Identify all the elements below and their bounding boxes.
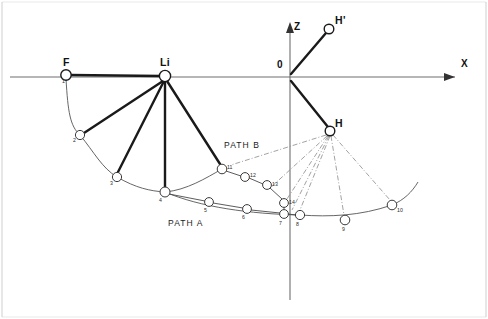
diagram-canvas (0, 0, 488, 319)
trajectory-node-label-13: 13 (272, 182, 278, 187)
h-fan-ray-3 (285, 136, 328, 202)
trajectory-node-8 (295, 210, 304, 219)
h-fan-ray-7 (333, 135, 390, 200)
trajectory-node-label-10: 10 (397, 208, 403, 213)
atom-layer (61, 24, 335, 136)
trajectory-node-7 (280, 210, 289, 219)
trajectory-node-label-8: 8 (296, 222, 299, 227)
trajectory-node-label-14: 14 (289, 200, 295, 205)
bond-o-hprime (291, 33, 326, 74)
trajectory-node-9 (340, 215, 350, 225)
atom-label-li: Li (160, 57, 170, 68)
trajectory-node-5 (205, 198, 214, 207)
trajectory-node-label-1: 1 (62, 79, 65, 84)
trajectory-node-label-4: 4 (159, 198, 162, 203)
atom-h (325, 126, 335, 136)
x-axis-label: X (461, 59, 468, 69)
trajectory-node-label-11: 11 (227, 165, 232, 170)
z-axis-label: Z (294, 22, 300, 32)
trajectory-node-12 (241, 173, 250, 182)
trajectory-node-3 (112, 172, 121, 181)
li-ray-bundle (84, 81, 220, 187)
atom-label-h-prime: H' (335, 15, 346, 26)
h-fan-ray-4 (292, 136, 329, 210)
atom-label-f: F (63, 57, 70, 68)
trajectory-node-13 (263, 181, 272, 190)
atom-label-h: H (335, 118, 343, 129)
trajectory-node-14 (280, 199, 289, 208)
trajectory-node-label-12: 12 (250, 173, 256, 178)
trajectory-node-2 (75, 130, 84, 139)
trajectory-node-label-7: 7 (279, 221, 282, 226)
trajectory-node-label-5: 5 (204, 208, 207, 213)
trajectory-node-label-6: 6 (242, 215, 245, 220)
figure-root: 1234567891011121314FLiH'H X Z 0 PATH A P… (0, 0, 488, 319)
bond-o-h (291, 81, 328, 127)
trajectory-node-6 (243, 205, 252, 214)
path-a-segments (169, 194, 296, 215)
trajectory-node-10 (387, 200, 397, 210)
atom-li (159, 70, 170, 81)
inner-trajectory-arc (66, 79, 222, 192)
trajectory-node-label-2: 2 (73, 138, 76, 143)
path-b-label: PATH B (224, 141, 260, 150)
atom-h-prime (324, 24, 334, 34)
trajectory-node-11 (217, 164, 227, 174)
h-fan-ray-6 (331, 136, 344, 215)
page-frame (2, 2, 486, 317)
trajectory-node-4 (160, 187, 170, 197)
trajectory-node-label-9: 9 (342, 227, 345, 232)
origin-label: 0 (277, 60, 283, 70)
trajectory-node-label-3: 3 (110, 181, 113, 186)
bond-f-li (70, 75, 161, 76)
h-fan-ray-5 (300, 136, 330, 210)
path-a-label: PATH A (168, 219, 204, 228)
li-ray-to-11 (167, 81, 220, 164)
z-axis (286, 22, 294, 300)
